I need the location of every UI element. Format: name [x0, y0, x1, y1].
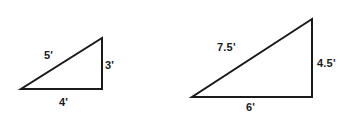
large-triangle-outline	[192, 19, 312, 97]
geometry-figure-canvas: 5' 3' 4' 7.5' 4.5' 6'	[0, 0, 352, 122]
small-triangle-outline	[21, 38, 102, 89]
large-triangle-vertical-leg-label: 4.5'	[317, 57, 336, 69]
small-triangle	[21, 38, 102, 89]
triangles-svg	[0, 0, 352, 122]
small-triangle-vertical-leg-label: 3'	[105, 59, 114, 71]
large-triangle-hypotenuse-label: 7.5'	[217, 41, 236, 53]
small-triangle-base-leg-label: 4'	[59, 96, 68, 108]
large-triangle	[192, 19, 312, 97]
small-triangle-hypotenuse-label: 5'	[44, 49, 53, 61]
large-triangle-base-leg-label: 6'	[246, 101, 255, 113]
